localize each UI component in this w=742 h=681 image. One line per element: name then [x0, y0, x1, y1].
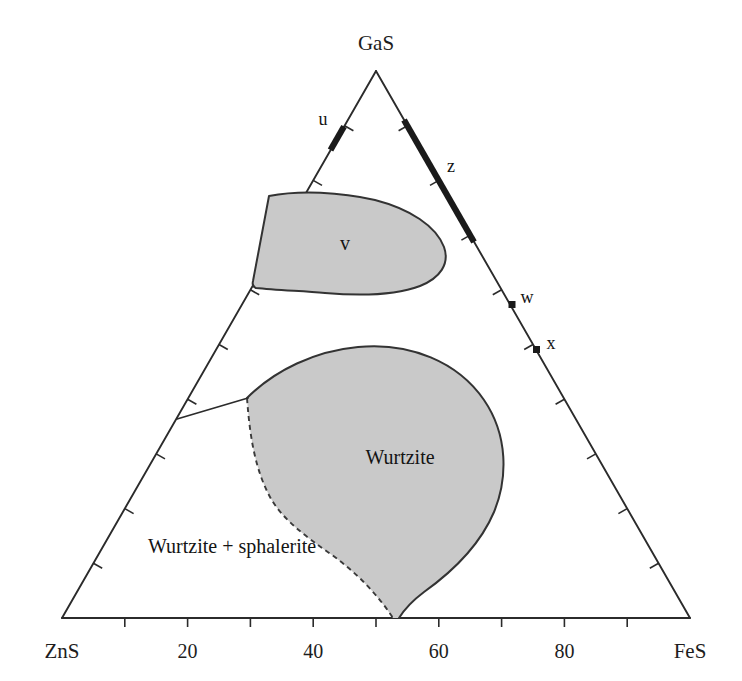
edge-marker-label-u: u	[319, 109, 328, 129]
axis-tick-label-60: 60	[429, 640, 449, 662]
axis-tick-label-20: 20	[178, 640, 198, 662]
vertex-label-gas: GaS	[358, 31, 394, 55]
ternary-diagram-canvas: GaS ZnS FeS 20 40 60 80 u z w x v Wurtzi…	[0, 0, 742, 681]
edge-marker-label-x: x	[547, 333, 556, 353]
tick-right-90	[650, 563, 659, 568]
edge-marker-label-z: z	[447, 156, 455, 176]
tick-left-40	[250, 290, 259, 295]
field-wurtzite-fill	[247, 346, 503, 618]
tie-line-left-edge-to-wurtzite	[177, 398, 248, 419]
axis-tick-label-40: 40	[303, 640, 323, 662]
ternary-phase-diagram: GaS ZnS FeS 20 40 60 80 u z w x v Wurtzi…	[0, 0, 742, 681]
edge-marker-w-dot	[509, 301, 516, 308]
field-label-wurtzite-plus-sphalerite: Wurtzite + sphalerite	[148, 535, 316, 558]
tick-right-80	[618, 509, 627, 514]
tick-left-80	[125, 509, 134, 514]
vertex-label-fes: FeS	[674, 639, 707, 663]
tick-right-50	[524, 345, 533, 350]
tick-left-60	[188, 399, 197, 404]
vertex-label-zns: ZnS	[44, 639, 79, 663]
bottom-axis-ticks	[125, 618, 627, 627]
edge-marker-u-segment	[331, 127, 345, 151]
tick-right-40	[493, 290, 502, 295]
tick-left-50	[219, 345, 228, 350]
tick-left-20	[313, 180, 322, 185]
tick-right-70	[587, 454, 596, 459]
edge-marker-x-dot	[533, 346, 540, 353]
tick-left-70	[156, 454, 165, 459]
field-label-wurtzite: Wurtzite	[365, 446, 434, 468]
tick-left-90	[93, 563, 102, 568]
field-label-v: v	[340, 232, 350, 254]
axis-tick-label-80: 80	[554, 640, 574, 662]
tick-right-60	[556, 399, 565, 404]
edge-marker-label-w: w	[521, 287, 534, 307]
